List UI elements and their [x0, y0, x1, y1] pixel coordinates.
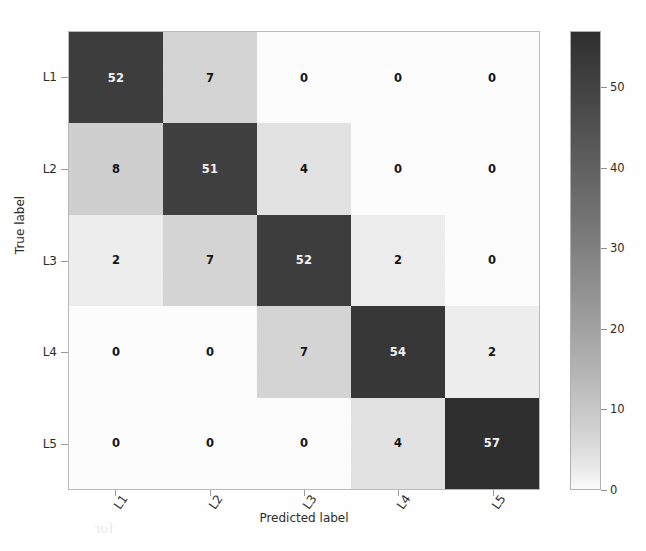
colorbar-gradient: [571, 32, 600, 489]
heatmap-cell-value: 0: [112, 345, 120, 359]
heatmap-cell: 2: [69, 215, 163, 306]
colorbar-tick-label: 20: [610, 322, 625, 336]
heatmap-cell-value: 0: [488, 71, 496, 85]
colorbar-tick-mark: [601, 168, 607, 169]
heatmap-cell: 7: [163, 215, 257, 306]
heatmap-cell: 0: [351, 123, 445, 214]
colorbar-tick-mark: [601, 87, 607, 88]
heatmap-cell-value: 52: [296, 253, 312, 267]
y-tick-mark: [61, 77, 68, 78]
y-tick-mark: [61, 444, 68, 445]
x-axis-title: Predicted label: [68, 511, 540, 525]
colorbar-tick-label: 30: [610, 241, 625, 255]
colorbar-tick-mark: [601, 490, 607, 491]
heatmap-cell: 4: [257, 123, 351, 214]
heatmap-cell-value: 51: [202, 162, 218, 176]
heatmap-cell: 0: [351, 32, 445, 123]
y-tick-label: L5: [9, 437, 57, 451]
x-tick-mark: [304, 490, 305, 496]
heatmap-cell: 0: [163, 306, 257, 397]
x-tick-mark: [210, 490, 211, 496]
x-tick-label: L4: [394, 492, 414, 512]
heatmap-grid: 527000851400275220007542000457: [68, 31, 540, 490]
confusion-matrix-figure: True label L1L2L3L4L5 527000851400275220…: [0, 0, 646, 551]
heatmap-cell: 0: [445, 123, 539, 214]
colorbar-tick-mark: [601, 329, 607, 330]
heatmap-cell: 57: [445, 398, 539, 489]
heatmap-cell-value: 54: [390, 345, 406, 359]
heatmap-cell: 7: [257, 306, 351, 397]
heatmap-cell-value: 2: [112, 253, 120, 267]
heatmap-cell: 0: [257, 32, 351, 123]
heatmap-cell-value: 52: [108, 71, 124, 85]
heatmap-cell-value: 4: [394, 436, 402, 450]
heatmap-cell: 0: [163, 398, 257, 489]
heatmap-cell-value: 4: [300, 162, 308, 176]
heatmap-cell-value: 8: [112, 162, 120, 176]
x-tick-mark: [493, 490, 494, 496]
x-tick-label: L1: [111, 492, 131, 512]
colorbar-tick-mark: [601, 409, 607, 410]
heatmap-cell-value: 0: [112, 436, 120, 450]
heatmap-cell-value: 7: [206, 71, 214, 85]
heatmap-cell: 54: [351, 306, 445, 397]
heatmap-cell-value: 0: [300, 436, 308, 450]
heatmap-cell-value: 0: [488, 253, 496, 267]
y-tick-label: L1: [9, 70, 57, 84]
heatmap-cell: 2: [445, 306, 539, 397]
heatmap-cell: 52: [69, 32, 163, 123]
x-tick-label: L3: [300, 492, 320, 512]
y-tick-mark: [61, 352, 68, 353]
colorbar-tick-label: 50: [610, 80, 625, 94]
colorbar-tick-mark: [601, 248, 607, 249]
heatmap-cell-value: 0: [394, 162, 402, 176]
heatmap-cell-value: 0: [394, 71, 402, 85]
heatmap-cell: 0: [69, 306, 163, 397]
heatmap-cell: 52: [257, 215, 351, 306]
heatmap-cell-value: 7: [206, 253, 214, 267]
colorbar-tick-label: 40: [610, 161, 625, 175]
heatmap-cell: 0: [445, 215, 539, 306]
heatmap-cell: 0: [445, 32, 539, 123]
heatmap-cell-value: 0: [206, 436, 214, 450]
x-tick-label: L2: [205, 492, 225, 512]
heatmap-cell: 8: [69, 123, 163, 214]
heatmap-cell: 2: [351, 215, 445, 306]
heatmap-cell: 0: [257, 398, 351, 489]
y-tick-label: L4: [9, 345, 57, 359]
colorbar-tick-label: 0: [610, 483, 617, 497]
heatmap-cell-value: 2: [488, 345, 496, 359]
heatmap-cell: 4: [351, 398, 445, 489]
heatmap-cell-value: 7: [300, 345, 308, 359]
heatmap-cell-value: 0: [300, 71, 308, 85]
heatmap-cell-value: 2: [394, 253, 402, 267]
heatmap-cell: 0: [69, 398, 163, 489]
x-tick-label: L5: [489, 492, 509, 512]
y-axis-ticks: L1L2L3L4L5: [0, 31, 68, 490]
y-tick-label: L3: [9, 254, 57, 268]
y-tick-label: L2: [9, 162, 57, 176]
x-tick-mark: [115, 490, 116, 496]
heatmap-cell: 51: [163, 123, 257, 214]
heatmap-cell-value: 0: [206, 345, 214, 359]
heatmap-cell-value: 0: [488, 162, 496, 176]
x-tick-mark: [398, 490, 399, 496]
colorbar-tick-label: 10: [610, 402, 625, 416]
colorbar: [570, 31, 601, 490]
heatmap-cell-value: 57: [484, 436, 500, 450]
y-tick-mark: [61, 261, 68, 262]
colorbar-ticks: 01020304050: [601, 31, 646, 490]
y-tick-mark: [61, 169, 68, 170]
heatmap-cell: 7: [163, 32, 257, 123]
